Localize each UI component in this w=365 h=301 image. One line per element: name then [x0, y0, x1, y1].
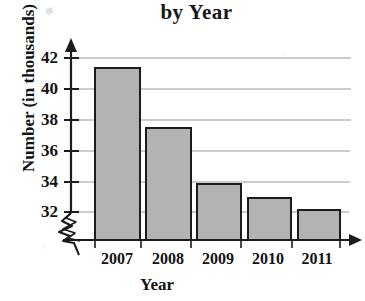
- xtick-label-2009: 2009: [191, 250, 245, 268]
- y-axis: [65, 38, 77, 213]
- y-axis-title: Number (in thousands): [19, 0, 39, 183]
- xtick-label-2007: 2007: [90, 250, 144, 268]
- bar-2009: [197, 184, 241, 240]
- xtick-label-2011: 2011: [290, 250, 344, 268]
- xtick-label-2010: 2010: [241, 250, 295, 268]
- y-axis-arrowhead: [65, 38, 77, 52]
- chart-figure: by Year: [0, 0, 365, 301]
- x-axis-arrowhead: [349, 234, 362, 246]
- bars: [95, 68, 340, 240]
- x-axis-title: Year: [140, 275, 174, 295]
- x-tick-marks: [95, 240, 340, 248]
- xtick-label-2008: 2008: [141, 250, 195, 268]
- bar-2010: [248, 198, 291, 240]
- ytick-label-32: 32: [30, 202, 58, 222]
- bar-2011: [298, 210, 340, 240]
- bar-2008: [146, 128, 191, 240]
- bar-2007: [95, 68, 140, 240]
